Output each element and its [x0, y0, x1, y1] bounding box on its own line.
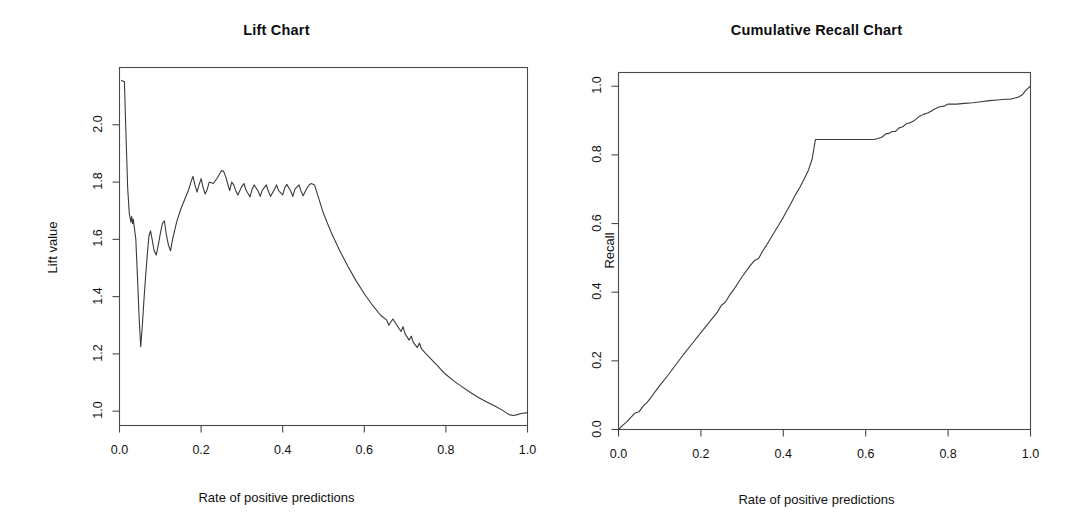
lift-y-tickmarks	[113, 125, 120, 411]
x-tick-label: 0.0	[111, 443, 128, 457]
lift-chart-plot	[0, 0, 545, 530]
lift-x-tickmarks	[120, 426, 528, 433]
x-tick-label: 0.8	[437, 443, 454, 457]
y-tick-label: 2.0	[91, 104, 105, 144]
x-tick-label: 1.0	[519, 443, 536, 457]
x-tick-label: 0.6	[356, 443, 373, 457]
lift-chart-panel: Lift Chart Lift value Rate of positive p…	[0, 0, 545, 530]
y-tick-label: 1.8	[91, 161, 105, 201]
figure-container: Lift Chart Lift value Rate of positive p…	[0, 0, 1087, 530]
y-tick-label: 1.4	[91, 276, 105, 316]
lift-curve-path	[122, 80, 528, 415]
y-tick-label: 1.0	[91, 390, 105, 430]
recall-chart-panel: Cumulative Recall Chart Recall Rate of p…	[542, 0, 1087, 530]
lift-x-axis-title: Rate of positive predictions	[0, 490, 545, 505]
y-tick-label: 0.0	[590, 409, 604, 449]
x-tick-label: 0.8	[939, 447, 956, 461]
x-tick-label: 0.6	[857, 447, 874, 461]
recall-x-tickmarks	[619, 430, 1031, 437]
x-tick-label: 0.4	[775, 447, 792, 461]
y-tick-label: 0.2	[590, 340, 604, 380]
x-tick-label: 0.0	[610, 447, 627, 461]
y-tick-label: 0.8	[590, 134, 604, 174]
y-tick-label: 1.6	[91, 218, 105, 258]
x-tick-label: 0.2	[692, 447, 709, 461]
recall-curve-path	[619, 86, 1031, 429]
y-tick-label: 0.4	[590, 271, 604, 311]
x-tick-label: 0.4	[274, 443, 291, 457]
y-tick-label: 1.0	[590, 65, 604, 105]
lift-y-axis-title: Lift value	[45, 188, 60, 308]
y-tick-label: 1.2	[91, 333, 105, 373]
x-tick-label: 1.0	[1022, 447, 1039, 461]
recall-x-axis-title: Rate of positive predictions	[542, 492, 1087, 507]
y-tick-label: 0.6	[590, 203, 604, 243]
x-tick-label: 0.2	[192, 443, 209, 457]
